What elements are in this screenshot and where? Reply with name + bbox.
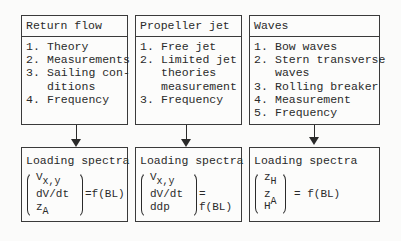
item-number [254, 66, 275, 79]
item-text: waves [275, 66, 310, 79]
item-text: Theory [47, 40, 88, 53]
item-number: 2. [140, 53, 161, 66]
right-paren [278, 172, 286, 216]
list-item: measurement [140, 80, 241, 93]
vector-entry: dV/dt [150, 188, 183, 200]
vector-subscript: A [43, 206, 49, 217]
vector-entry: V [150, 171, 157, 183]
return-flow-list: 1.Theory 2.Measurements 3.Sailing con- d… [22, 37, 127, 106]
item-text: Stern transverse [275, 53, 385, 66]
list-item: 1.Free jet [140, 40, 241, 53]
item-text: Rolling breaker [275, 80, 379, 93]
loading-spectra-title: Loading spectra [250, 148, 379, 168]
item-text: measurement [161, 80, 237, 93]
item-text: ditions [47, 80, 95, 93]
list-item: ditions [26, 80, 127, 93]
equals-expression: = f(BL) [199, 188, 241, 214]
item-number: 3. [140, 93, 161, 106]
item-number [140, 80, 161, 93]
vector-subscript: x,y [43, 176, 61, 187]
list-item: 4.Frequency [26, 93, 127, 106]
item-number: 3. [254, 80, 275, 93]
item-number: 5. [254, 106, 275, 119]
item-text: Frequency [47, 93, 109, 106]
item-number: 1. [140, 40, 161, 53]
list-item: 2.Measurements [26, 53, 127, 66]
vector-entry: ddp [150, 201, 170, 213]
list-item: waves [254, 66, 379, 79]
list-item: 5.Frequency [254, 106, 379, 119]
vector-subscript: x,y [157, 176, 175, 187]
item-number: 2. [254, 53, 275, 66]
item-text: Free jet [161, 40, 216, 53]
item-number [26, 80, 47, 93]
loading-spectra-box-2: Loading spectra Vx,y dV/dt ddp = f(BL) [135, 147, 242, 222]
item-number: 2. [26, 53, 47, 66]
return-flow-box: Return flow 1.Theory 2.Measurements 3.Sa… [21, 15, 128, 125]
loading-spectra-title: Loading spectra [22, 148, 127, 168]
waves-title: Waves [250, 16, 379, 37]
arrow-line-2 [186, 125, 187, 140]
item-text: theories [161, 66, 216, 79]
vector-entry: z [264, 171, 271, 183]
right-paren [75, 172, 83, 218]
item-text: Measurement [275, 93, 351, 106]
list-item: 3.Rolling breaker [254, 80, 379, 93]
left-paren [141, 172, 149, 218]
item-number: 1. [26, 40, 47, 53]
loading-spectra-box-1: Loading spectra Vx,y dV/dt zA =f(BL) [21, 147, 128, 222]
equals-expression: = f(BL) [294, 188, 340, 201]
item-number: 1. [254, 40, 275, 53]
list-item: 2.Limited jet [140, 53, 241, 66]
list-item: 1.Theory [26, 40, 127, 53]
equals-expression: =f(BL) [85, 188, 125, 201]
item-text: Sailing con- [47, 66, 130, 79]
waves-box: Waves 1.Bow waves 2.Stern transverse wav… [249, 15, 380, 125]
loading-spectra-title: Loading spectra [136, 148, 241, 168]
item-number: 4. [254, 93, 275, 106]
item-text: Frequency [275, 106, 337, 119]
list-item: 3.Frequency [140, 93, 241, 106]
list-item: 2.Stern transverse [254, 53, 379, 66]
item-text: Measurements [47, 53, 130, 66]
vector-entry: dV/dt [36, 188, 69, 200]
item-text: Limited jet [161, 53, 237, 66]
vector-entry: z [264, 188, 271, 200]
right-paren [189, 172, 197, 218]
list-item: 3.Sailing con- [26, 66, 127, 79]
list-item: theories [140, 66, 241, 79]
list-item: 1.Bow waves [254, 40, 379, 53]
propeller-jet-list: 1.Free jet 2.Limited jet theories measur… [136, 37, 241, 106]
vector-entry: H [264, 200, 271, 212]
left-paren [27, 172, 35, 218]
list-item: 4.Measurement [254, 93, 379, 106]
arrow-down-icon [71, 139, 81, 147]
vector-subscript: H [271, 176, 277, 187]
left-paren [255, 172, 263, 216]
waves-list: 1.Bow waves 2.Stern transverse waves 3.R… [250, 37, 379, 119]
vector-entry: V [36, 171, 43, 183]
item-number [140, 66, 161, 79]
propeller-jet-title: Propeller jet [136, 16, 241, 37]
return-flow-title: Return flow [22, 16, 127, 37]
vector-subscript: A [271, 196, 277, 207]
arrow-line-1 [76, 125, 77, 140]
item-number: 4. [26, 93, 47, 106]
arrow-down-icon [181, 139, 191, 147]
arrow-down-icon [309, 137, 319, 145]
propeller-jet-box: Propeller jet 1.Free jet 2.Limited jet t… [135, 15, 242, 125]
item-text: Bow waves [275, 40, 337, 53]
item-number: 3. [26, 66, 47, 79]
item-text: Frequency [161, 93, 223, 106]
vector-entry: z [36, 201, 43, 213]
loading-spectra-box-3: Loading spectra zH z HA = f(BL) [249, 147, 380, 222]
